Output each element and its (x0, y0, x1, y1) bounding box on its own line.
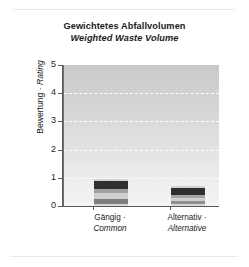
y-tick-label-1: 1 (16, 172, 56, 182)
y-axis-tick-labels: 5 4 3 2 1 0 (8, 65, 56, 207)
gridline-3 (64, 121, 219, 122)
y-tick-label-5: 5 (16, 59, 56, 69)
page-rule-top (14, 9, 234, 10)
x-tick-mark-1 (170, 206, 171, 210)
bar-segment-2 (94, 181, 128, 189)
x-axis-line (62, 206, 219, 207)
bar-segment-2 (171, 188, 205, 195)
chart-figure: Gewichtetes Abfallvolumen Weighted Waste… (0, 0, 249, 267)
gridline-1 (64, 178, 219, 179)
bar-gaengig-common[interactable] (94, 179, 128, 206)
gridline-2 (64, 150, 219, 151)
x-tick-mark-0 (93, 206, 94, 210)
page-rule-bottom (10, 256, 238, 257)
y-axis-line (62, 65, 63, 207)
x-label-english-1: Alternative (141, 224, 233, 235)
x-label-german-1: Alternativ · (141, 213, 233, 224)
y-tick-label-0: 0 (16, 200, 56, 210)
y-tick-label-4: 4 (16, 87, 56, 97)
gridline-4 (64, 93, 219, 94)
y-tick-label-3: 3 (16, 115, 56, 125)
plot-area (63, 65, 219, 206)
bar-alternativ-alternative[interactable] (171, 186, 205, 206)
y-tick-label-2: 2 (16, 144, 56, 154)
x-tick-label-alternativ-alternative: Alternativ · Alternative (141, 213, 233, 234)
